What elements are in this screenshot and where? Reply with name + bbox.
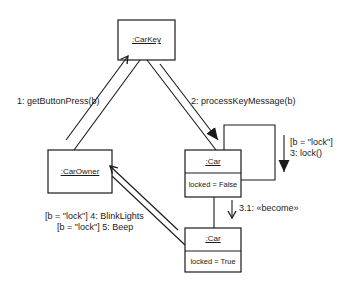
message-label-1: 1: getButtonPress(b)	[17, 96, 100, 107]
object-car-unlocked-name: :Car	[185, 157, 241, 166]
object-car-unlocked-attribute: locked = False	[185, 180, 241, 189]
object-car-locked-name: :Car	[185, 234, 241, 243]
object-car-locked-attribute: locked = True	[185, 257, 241, 266]
message-label-2: 2: processKeyMessage(b)	[191, 96, 296, 107]
message-guard-3: [b = "lock"]	[290, 137, 333, 148]
message-label-3-1: 3.1: «become»	[239, 203, 299, 214]
object-carkey-name: :CarKey	[118, 35, 175, 44]
message-label-4: [b = "lock"] 4: BlinkLights	[45, 211, 144, 222]
object-carowner-name: :CarOwner	[48, 167, 112, 176]
message-label-3: 3: lock()	[290, 148, 322, 159]
message-label-5: [b = "lock"] 5: Beep	[57, 222, 133, 233]
